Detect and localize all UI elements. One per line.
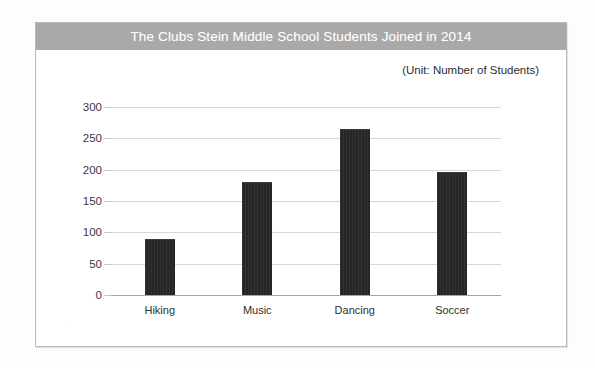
chart-unit-note: (Unit: Number of Students) — [402, 64, 539, 76]
y-axis-tick-mark — [104, 138, 111, 139]
y-axis-tick-label: 300 — [83, 101, 102, 113]
y-axis-tick-label: 0 — [96, 289, 102, 301]
y-axis-tick-mark — [104, 107, 111, 108]
chart-card: The Clubs Stein Middle School Students J… — [35, 22, 567, 347]
bar-soccer — [437, 172, 467, 295]
scanned-page: The Clubs Stein Middle School Students J… — [0, 0, 595, 368]
x-axis-category-label: Dancing — [335, 304, 375, 316]
x-axis-category-label: Hiking — [144, 304, 175, 316]
y-axis-tick-label: 250 — [83, 132, 102, 144]
y-axis-tick-label: 50 — [89, 258, 102, 270]
axis-baseline — [111, 295, 501, 296]
y-axis-tick-mark — [104, 201, 111, 202]
y-axis-tick-mark — [104, 264, 111, 265]
y-axis-tick-label: 100 — [83, 226, 102, 238]
gridline — [111, 107, 501, 108]
x-axis-category-label: Music — [243, 304, 272, 316]
y-axis-tick-label: 150 — [83, 195, 102, 207]
y-axis-tick-label: 200 — [83, 164, 102, 176]
y-axis-tick-mark — [104, 295, 111, 296]
gridline — [111, 170, 501, 171]
chart-title-bar: The Clubs Stein Middle School Students J… — [36, 23, 566, 50]
y-axis-tick-mark — [104, 170, 111, 171]
plot-area: 050100150200250300HikingMusicDancingSocc… — [111, 107, 501, 295]
x-axis-category-label: Soccer — [435, 304, 469, 316]
gridline — [111, 138, 501, 139]
y-axis-tick-mark — [104, 232, 111, 233]
chart-title: The Clubs Stein Middle School Students J… — [130, 29, 471, 44]
bar-dancing — [340, 129, 370, 295]
bar-music — [242, 182, 272, 295]
bar-hiking — [145, 239, 175, 295]
